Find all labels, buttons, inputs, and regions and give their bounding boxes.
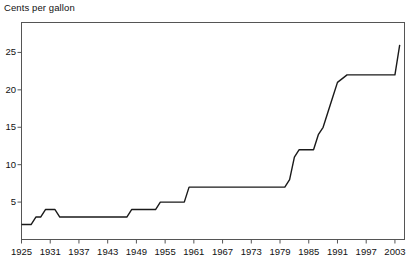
plot-frame — [22, 23, 405, 240]
x-tick-label: 1979 — [265, 247, 295, 257]
x-tick-label: 1937 — [64, 247, 94, 257]
x-tick-label: 1949 — [121, 247, 151, 257]
x-tick-label: 1943 — [93, 247, 123, 257]
x-tick-label: 1967 — [208, 247, 238, 257]
x-tick-marks — [22, 240, 395, 244]
y-tick-label: 25 — [0, 47, 16, 57]
plot-area: 510152025 192519311937194319491955196119… — [0, 0, 413, 275]
y-tick-label: 20 — [0, 85, 16, 95]
chart-figure: Cents per gallon 510152025 1925193119371… — [0, 0, 413, 275]
y-tick-label: 15 — [0, 122, 16, 132]
x-tick-label: 1931 — [35, 247, 65, 257]
x-tick-label: 1985 — [294, 247, 324, 257]
x-tick-label: 1991 — [322, 247, 352, 257]
x-tick-label: 1997 — [351, 247, 381, 257]
x-tick-label: 1973 — [236, 247, 266, 257]
x-tick-label: 1925 — [7, 247, 37, 257]
y-tick-label: 5 — [0, 197, 16, 207]
x-tick-label: 2003 — [380, 247, 410, 257]
chart-svg — [0, 0, 413, 275]
x-tick-label: 1955 — [150, 247, 180, 257]
y-tick-label: 10 — [0, 160, 16, 170]
x-tick-label: 1961 — [179, 247, 209, 257]
y-tick-marks — [18, 52, 22, 202]
